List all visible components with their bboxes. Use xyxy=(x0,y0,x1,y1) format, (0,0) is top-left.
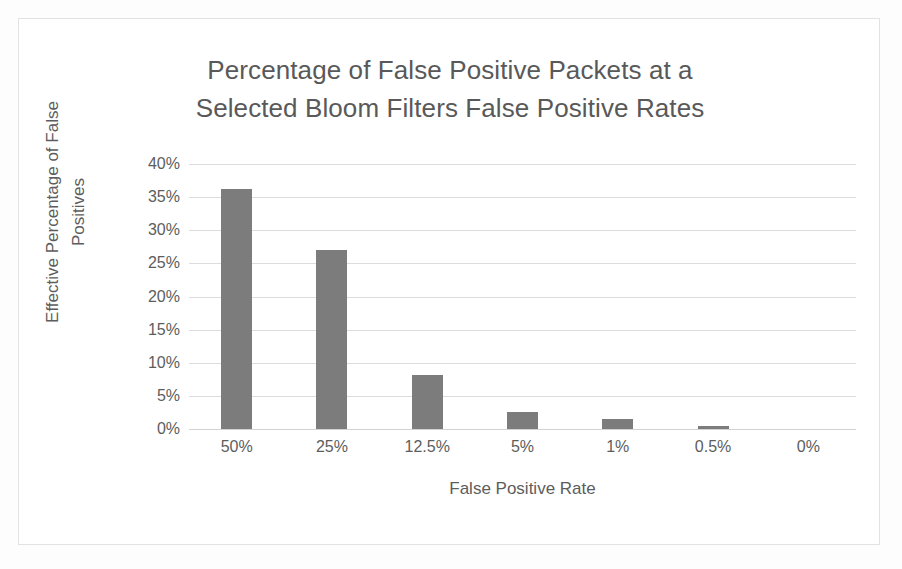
bar-slot-25 xyxy=(284,164,379,429)
x-tick-label-3: 5% xyxy=(475,438,570,456)
x-axis-title: False Positive Rate xyxy=(189,479,856,499)
y-tick-label-40: 40% xyxy=(122,156,180,172)
bar-slot-12-5 xyxy=(380,164,475,429)
y-tick-label-0: 0% xyxy=(122,421,180,437)
bar-slot-1 xyxy=(570,164,665,429)
y-tick-label-20: 20% xyxy=(122,289,180,305)
y-tick-label-15: 15% xyxy=(122,322,180,338)
y-axis-title: Effective Percentage of False Positives xyxy=(40,72,92,352)
chart-title-line-2: Selected Bloom Filters False Positive Ra… xyxy=(19,89,881,127)
y-tick-label-35: 35% xyxy=(122,189,180,205)
bar-12-5 xyxy=(412,375,443,429)
y-axis-title-line-2: Positives xyxy=(66,72,92,352)
x-axis-tick-labels: 50% 25% 12.5% 5% 1% 0.5% 0% xyxy=(189,438,856,456)
gridline-0-baseline: 0% xyxy=(189,429,856,430)
chart-frame: Percentage of False Positive Packets at … xyxy=(18,18,880,545)
y-tick-label-30: 30% xyxy=(122,222,180,238)
bar-5 xyxy=(507,412,538,429)
x-tick-label-2: 12.5% xyxy=(380,438,475,456)
bar-50 xyxy=(221,189,252,429)
bar-slot-50 xyxy=(189,164,284,429)
x-tick-label-0: 50% xyxy=(189,438,284,456)
bar-25 xyxy=(316,250,347,429)
chart-title: Percentage of False Positive Packets at … xyxy=(19,51,881,127)
x-tick-label-5: 0.5% xyxy=(665,438,760,456)
x-tick-label-6: 0% xyxy=(761,438,856,456)
x-tick-label-1: 25% xyxy=(284,438,379,456)
y-tick-label-25: 25% xyxy=(122,255,180,271)
bar-slot-0 xyxy=(761,164,856,429)
bar-1 xyxy=(602,419,633,429)
bar-slot-0-5 xyxy=(665,164,760,429)
bar-series xyxy=(189,164,856,429)
y-tick-label-10: 10% xyxy=(122,355,180,371)
bar-0-5 xyxy=(698,426,729,429)
y-tick-label-5: 5% xyxy=(122,388,180,404)
chart-title-line-1: Percentage of False Positive Packets at … xyxy=(19,51,881,89)
y-axis-title-line-1: Effective Percentage of False xyxy=(40,72,66,352)
bar-slot-5 xyxy=(475,164,570,429)
x-tick-label-4: 1% xyxy=(570,438,665,456)
plot-area: 40% 35% 30% 25% 20% 15% 10% 5% xyxy=(189,164,856,429)
scanned-page: Percentage of False Positive Packets at … xyxy=(0,0,902,569)
